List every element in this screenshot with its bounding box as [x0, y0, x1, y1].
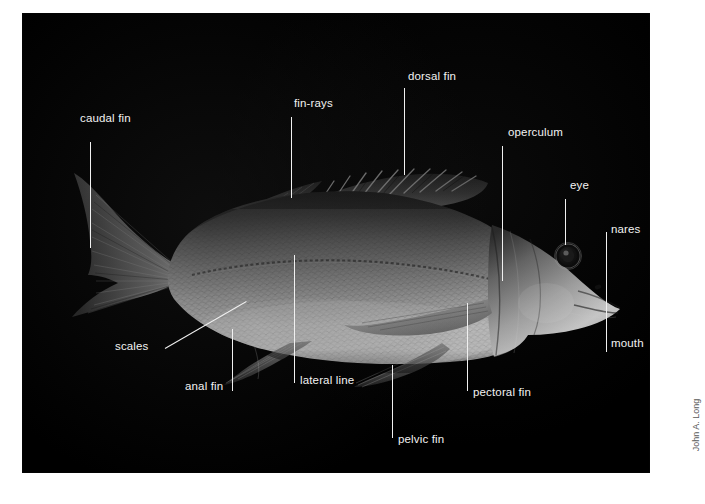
figure-page: caudal fin fin-rays dorsal fin operculum… [0, 0, 705, 504]
fish-head-shape [488, 225, 620, 357]
fish-illustration [22, 13, 650, 473]
label-scales: scales [115, 341, 149, 353]
leader-caudal-fin [90, 142, 91, 248]
label-pelvic-fin: pelvic fin [398, 434, 444, 446]
leader-nares-mouth [606, 232, 607, 352]
leader-pelvic-fin [392, 365, 393, 438]
page-bleed-text [26, 488, 356, 500]
leader-pectoral-fin [467, 303, 468, 391]
fish-photograph-plate: caudal fin fin-rays dorsal fin operculum… [22, 13, 650, 473]
leader-eye [565, 199, 566, 245]
label-anal-fin: anal fin [185, 381, 223, 393]
photo-credit-text: John A. Long [691, 399, 701, 452]
label-dorsal-fin: dorsal fin [408, 71, 456, 83]
fish-eye-shape [555, 243, 582, 270]
leader-dorsal-fin [404, 88, 405, 175]
leader-lateral-line [294, 255, 295, 383]
photo-credit: John A. Long [689, 370, 703, 480]
label-operculum: operculum [508, 127, 563, 139]
label-eye: eye [570, 180, 589, 192]
label-pectoral-fin: pectoral fin [473, 387, 531, 399]
label-mouth: mouth [611, 338, 644, 350]
label-nares: nares [611, 224, 641, 236]
leader-operculum [502, 146, 503, 281]
label-lateral-line: lateral line [300, 375, 354, 387]
leader-anal-fin [232, 329, 233, 391]
leader-fin-rays [291, 117, 292, 198]
label-fin-rays: fin-rays [294, 98, 333, 110]
label-caudal-fin: caudal fin [80, 113, 131, 125]
